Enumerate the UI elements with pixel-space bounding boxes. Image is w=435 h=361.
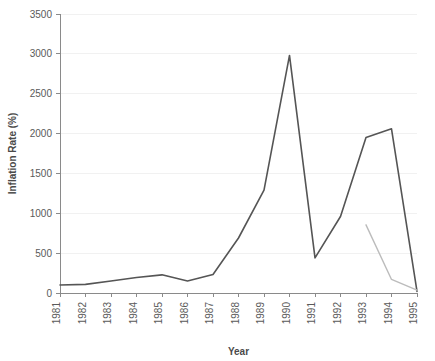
chart-container: 0500100015002000250030003500 19811982198… xyxy=(0,0,435,361)
x-axis-ticks-group: 1981198219831984198519861987198819891990… xyxy=(51,293,419,324)
x-tick-label: 1995 xyxy=(408,302,419,325)
x-axis-title: Year xyxy=(228,346,249,357)
y-tick-label: 2000 xyxy=(30,128,53,139)
y-tick-label: 0 xyxy=(46,288,52,299)
gridlines-group xyxy=(60,14,417,253)
y-tick-label: 2500 xyxy=(30,88,53,99)
x-tick-label: 1983 xyxy=(102,302,113,325)
x-tick-label: 1982 xyxy=(77,302,88,325)
x-tick-label: 1981 xyxy=(51,302,62,325)
series-line-series-light xyxy=(366,225,417,290)
x-tick-label: 1992 xyxy=(332,302,343,325)
y-tick-label: 3500 xyxy=(30,9,53,20)
inflation-line-chart: 0500100015002000250030003500 19811982198… xyxy=(0,0,435,361)
x-tick-label: 1991 xyxy=(306,302,317,325)
x-tick-label: 1990 xyxy=(281,302,292,325)
x-tick-label: 1993 xyxy=(357,302,368,325)
y-tick-label: 500 xyxy=(35,248,52,259)
x-tick-label: 1987 xyxy=(204,302,215,325)
x-tick-label: 1989 xyxy=(255,302,266,325)
x-tick-label: 1988 xyxy=(230,302,241,325)
y-tick-label: 1000 xyxy=(30,208,53,219)
y-tick-label: 3000 xyxy=(30,48,53,59)
y-axis-ticks-group: 0500100015002000250030003500 xyxy=(30,9,60,299)
x-tick-label: 1994 xyxy=(383,302,394,325)
y-axis-title: Inflation Rate (%) xyxy=(7,113,18,195)
x-tick-label: 1985 xyxy=(153,302,164,325)
x-tick-label: 1986 xyxy=(179,302,190,325)
y-tick-label: 1500 xyxy=(30,168,53,179)
axes-group xyxy=(60,14,417,293)
x-tick-label: 1984 xyxy=(128,302,139,325)
